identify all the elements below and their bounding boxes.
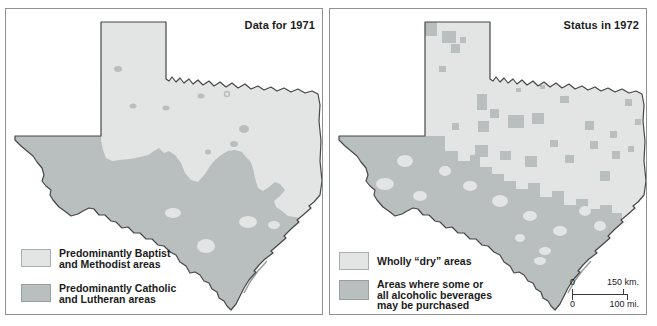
texas-map-1971 (6, 9, 322, 314)
scale-tick-km (623, 289, 624, 295)
scale-km-label: 150 km. (607, 277, 639, 287)
scale-zero-km: 0 (570, 277, 575, 287)
scale-zero-mi: 0 (570, 299, 575, 309)
scale-line (572, 294, 627, 295)
scale-mi-label: 100 mi. (609, 299, 639, 309)
panel-1972: Status in 1972 Wholly “dry” areas Areas … (329, 8, 647, 315)
map-title-1972: Status in 1972 (564, 19, 639, 31)
texas-map-1972 (330, 9, 646, 314)
map-title-1971: Data for 1971 (245, 19, 315, 31)
scale-bar: 0 150 km. 0 100 mi. (569, 273, 639, 313)
panel-1971: Data for 1971 Predominantly Baptist and … (5, 8, 323, 315)
texas-maps-figure: Data for 1971 Predominantly Baptist and … (0, 0, 657, 326)
